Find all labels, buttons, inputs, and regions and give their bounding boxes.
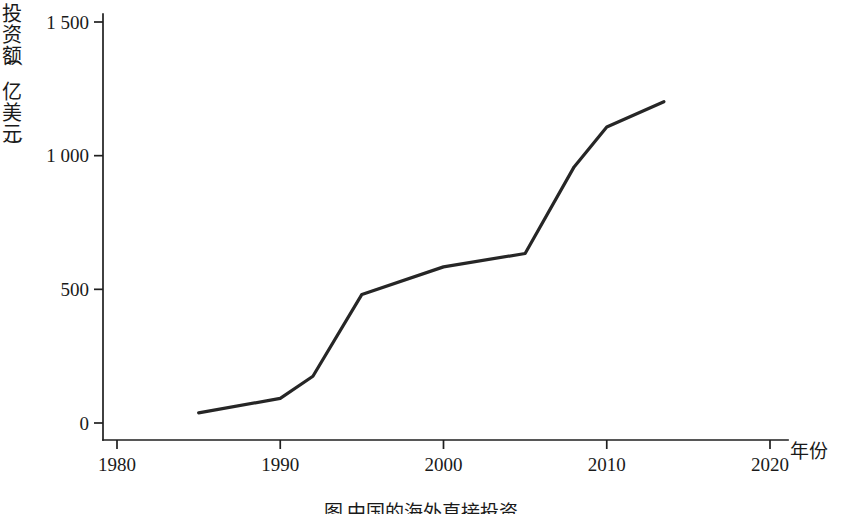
x-tick-label: 1990 — [261, 454, 299, 475]
data-series-group — [199, 102, 664, 413]
x-tick-labels: 19801990200020102020 — [98, 454, 789, 475]
data-series-line — [199, 102, 664, 413]
x-axis-title: 年份 — [790, 441, 828, 462]
figure-caption: 图 中国的海外直接投资 — [0, 497, 842, 514]
axes-group — [94, 14, 788, 449]
figure-container: 投资额(亿美元) 05001 0001 500 1980199020002010… — [0, 0, 842, 514]
line-chart-plot: 05001 0001 500 19801990200020102020 年份 — [0, 0, 842, 514]
y-tick-label: 0 — [80, 413, 90, 434]
y-tick-label: 1 500 — [46, 12, 89, 33]
y-tick-label: 1 000 — [46, 145, 89, 166]
x-tick-label: 2020 — [751, 454, 789, 475]
x-tick-label: 2000 — [425, 454, 463, 475]
x-tick-label: 2010 — [588, 454, 626, 475]
y-tick-labels: 05001 0001 500 — [46, 12, 89, 434]
y-tick-label: 500 — [61, 279, 90, 300]
x-tick-label: 1980 — [98, 454, 136, 475]
